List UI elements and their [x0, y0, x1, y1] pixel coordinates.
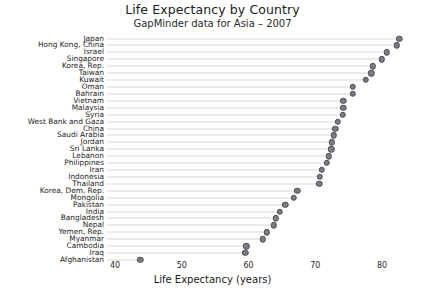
leader-line — [107, 86, 351, 87]
data-point — [317, 174, 323, 180]
leader-line — [107, 204, 283, 205]
leader-line — [107, 197, 292, 198]
leader-line — [107, 114, 341, 115]
leader-line — [107, 218, 274, 219]
leader-line — [107, 163, 325, 164]
data-point — [393, 42, 399, 48]
leader-line — [107, 45, 395, 46]
data-point — [368, 70, 374, 76]
leader-line — [107, 246, 244, 247]
x-axis-label: Life Expectancy (years) — [0, 274, 425, 285]
leader-line — [107, 59, 380, 60]
x-tick-label: 80 — [377, 261, 387, 270]
leader-line — [107, 107, 341, 108]
data-point — [379, 56, 385, 62]
data-point — [282, 201, 288, 207]
leader-line — [107, 225, 272, 226]
x-tick-label: 50 — [177, 261, 187, 270]
leader-line — [107, 176, 318, 177]
data-point — [335, 118, 341, 124]
leader-line — [107, 135, 332, 136]
leader-line — [107, 239, 261, 240]
data-point — [383, 49, 389, 55]
data-point — [325, 153, 331, 159]
leader-line — [107, 66, 371, 67]
data-point — [316, 181, 322, 187]
data-point — [323, 160, 329, 166]
chart-subtitle: GapMinder data for Asia – 2007 — [0, 18, 425, 29]
plot-area: JapanHong Kong, ChinaIsraelSingaporeKore… — [0, 33, 425, 261]
leader-line — [107, 73, 369, 74]
leader-line — [107, 93, 351, 94]
data-point — [340, 98, 346, 104]
leader-line — [107, 38, 397, 39]
data-point — [349, 84, 355, 90]
data-point — [332, 125, 338, 131]
leader-line — [107, 183, 317, 184]
leader-line — [107, 100, 341, 101]
data-point — [328, 146, 334, 152]
x-axis: 4050607080 Life Expectancy (years) — [0, 261, 425, 302]
leader-line — [107, 211, 278, 212]
x-tick-label: 60 — [243, 261, 253, 270]
data-point — [363, 77, 369, 83]
data-point — [369, 63, 375, 69]
data-point — [349, 91, 355, 97]
data-point — [259, 236, 265, 242]
chart-title: Life Expectancy by Country — [0, 2, 425, 17]
leader-line — [107, 80, 364, 81]
data-point — [294, 188, 300, 194]
data-point — [319, 167, 325, 173]
leader-line — [107, 149, 329, 150]
leader-line — [107, 128, 333, 129]
data-point — [271, 222, 277, 228]
leader-line — [107, 232, 265, 233]
x-tick-label: 40 — [110, 261, 120, 270]
data-point — [396, 35, 402, 41]
data-point — [277, 208, 283, 214]
leader-line — [107, 190, 295, 191]
data-point — [339, 111, 345, 117]
leader-line — [107, 156, 327, 157]
chart-container: Life Expectancy by Country GapMinder dat… — [0, 0, 425, 302]
data-point — [263, 229, 269, 235]
leader-line — [107, 170, 320, 171]
data-point — [242, 250, 248, 256]
x-tick-label: 70 — [310, 261, 320, 270]
leader-line — [107, 52, 385, 53]
leader-line — [107, 253, 243, 254]
data-point — [340, 105, 346, 111]
leader-line — [107, 121, 336, 122]
data-point — [273, 215, 279, 221]
data-point — [329, 139, 335, 145]
leader-line — [107, 142, 330, 143]
data-point — [331, 132, 337, 138]
data-point — [243, 243, 249, 249]
data-point — [291, 195, 297, 201]
